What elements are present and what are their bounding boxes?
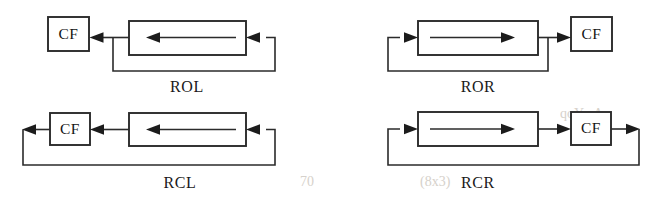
rol-register-to-cf-wire (90, 32, 130, 43)
panel-rol: CF ROL (48, 17, 275, 95)
rcl-cf-label: CF (60, 120, 80, 137)
rcl-register-to-cf-wire (90, 124, 129, 135)
panel-ror: CF ROR (388, 17, 612, 95)
rol-cf-label: CF (59, 25, 79, 42)
ror-cf-label: CF (582, 25, 602, 42)
figure-root: qoY aA (8x3) 70 CF (0, 0, 663, 202)
ghost-artifact: (8x3) (420, 174, 451, 190)
diagram-canvas: qoY aA (8x3) 70 CF (0, 0, 663, 202)
ror-register-to-cf-wire (538, 32, 571, 43)
ghost-artifact: 70 (300, 174, 314, 189)
rcr-cf-label: CF (581, 119, 601, 136)
ror-panel-label: ROR (461, 78, 496, 95)
rcr-panel-label: RCR (461, 174, 495, 191)
panel-rcl: CF RCL (22, 113, 275, 191)
rol-panel-label: ROL (170, 78, 204, 95)
rcr-register-to-cf-wire (538, 124, 571, 135)
rcl-panel-label: RCL (164, 174, 197, 191)
